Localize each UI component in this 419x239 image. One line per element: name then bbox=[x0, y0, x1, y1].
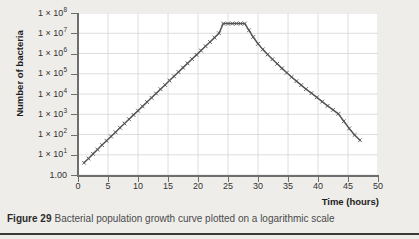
y-axis-tick bbox=[71, 13, 77, 14]
y-axis-tick bbox=[71, 74, 77, 75]
x-axis-tick-label: 25 bbox=[217, 182, 239, 191]
y-axis-tick bbox=[71, 94, 77, 95]
x-axis-tick-label: 45 bbox=[337, 182, 359, 191]
x-axis-title: Time (hours) bbox=[0, 196, 379, 207]
x-axis-tick-label: 10 bbox=[127, 182, 149, 191]
x-axis-tick-label: 15 bbox=[157, 182, 179, 191]
x-axis-tick-label: 40 bbox=[307, 182, 329, 191]
bottom-divider bbox=[0, 233, 419, 235]
y-axis-tick-label: 1 × 108 bbox=[38, 9, 67, 18]
y-axis-tick bbox=[71, 33, 77, 34]
y-axis-tick-label: 1 × 107 bbox=[38, 29, 67, 38]
y-axis-line bbox=[77, 13, 79, 177]
y-axis-tick-label: 1 × 103 bbox=[38, 110, 67, 119]
y-axis-tick bbox=[71, 54, 77, 55]
growth-curve bbox=[78, 13, 378, 175]
y-axis-tick-label: 1 × 105 bbox=[38, 69, 67, 78]
y-axis-title: Number of bacteria bbox=[14, 14, 25, 134]
x-axis-tick-label: 50 bbox=[367, 182, 389, 191]
figure-caption: Figure 29Bacterial population growth cur… bbox=[0, 213, 419, 224]
x-axis-tick-label: 35 bbox=[277, 182, 299, 191]
figure-caption-text: Bacterial population growth curve plotte… bbox=[54, 213, 334, 224]
y-axis-tick bbox=[71, 135, 77, 136]
y-axis-tick bbox=[71, 155, 77, 156]
y-axis-tick-label: 1 × 102 bbox=[38, 130, 67, 139]
figure-container: 1.001 × 1011 × 1021 × 1031 × 1041 × 1051… bbox=[0, 0, 419, 239]
x-axis-tick-label: 0 bbox=[67, 182, 89, 191]
x-axis-tick-label: 20 bbox=[187, 182, 209, 191]
figure-caption-label: Figure 29 bbox=[7, 213, 51, 224]
y-axis-tick-label: 1 × 101 bbox=[38, 150, 67, 159]
y-axis-tick-label: 1 × 104 bbox=[38, 90, 67, 99]
x-axis-tick-label: 30 bbox=[247, 182, 269, 191]
y-axis-tick-label: 1.00 bbox=[49, 171, 67, 180]
y-axis-tick-label: 1 × 106 bbox=[38, 49, 67, 58]
x-axis-tick-label: 5 bbox=[97, 182, 119, 191]
plot-area bbox=[78, 13, 378, 175]
y-axis-tick bbox=[71, 175, 77, 176]
y-axis-tick bbox=[71, 114, 77, 115]
